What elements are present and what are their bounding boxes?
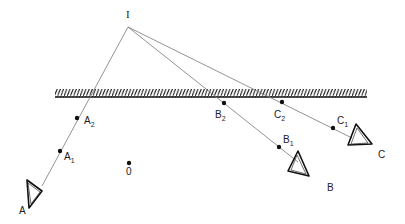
- observers: [27, 124, 372, 208]
- point-label-C2: C2: [274, 109, 285, 122]
- observer-label-A: A: [19, 205, 26, 216]
- point-C2: [280, 100, 284, 104]
- reflection-diagram: I 0 A2A1AB2B1BC2C1C: [0, 0, 405, 224]
- ray-points: [58, 100, 335, 165]
- point-B1: [277, 145, 281, 149]
- observer-eye-icon-C: [348, 124, 372, 145]
- labels: I 0 A2A1AB2B1BC2C1C: [19, 8, 385, 216]
- point-label-A1: A1: [64, 151, 75, 164]
- point-C1: [331, 126, 335, 130]
- point-A1: [58, 149, 62, 153]
- rays: [42, 27, 352, 186]
- point-label-C1: C1: [337, 115, 348, 128]
- source-label-I: I: [126, 8, 130, 20]
- ray-I-to-C: [128, 27, 352, 138]
- observer-label-C: C: [378, 149, 385, 160]
- observer-eye-icon-B: [288, 151, 309, 176]
- point-A2: [75, 116, 79, 120]
- ray-I-to-A: [42, 27, 128, 186]
- point-label-A2: A2: [84, 115, 95, 128]
- point-label-B1: B1: [283, 134, 294, 147]
- point-B2: [222, 101, 226, 105]
- observer-label-B: B: [327, 182, 334, 193]
- origin-point: [127, 161, 131, 165]
- diagram-canvas: I 0 A2A1AB2B1BC2C1C: [0, 0, 405, 224]
- observer-eye-icon-A: [27, 180, 42, 208]
- point-label-B2: B2: [215, 109, 226, 122]
- origin-label: 0: [126, 166, 132, 177]
